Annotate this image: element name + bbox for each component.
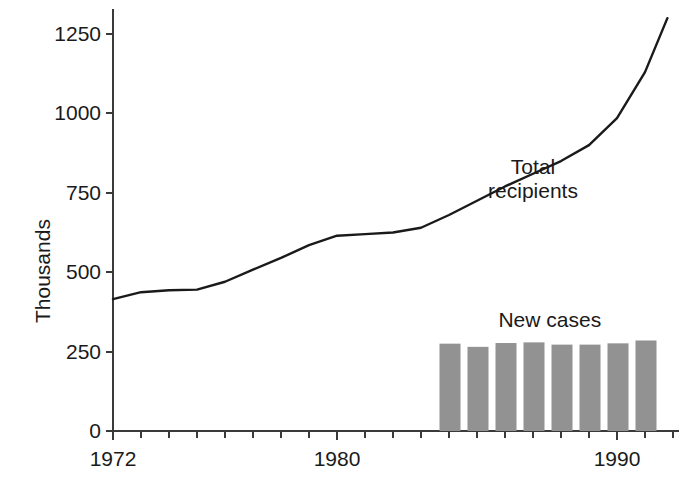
bar-new-cases-1988	[552, 345, 573, 431]
y-tick-label-500: 500	[66, 261, 101, 282]
bar-new-cases-1991	[636, 340, 657, 431]
x-tick-label-1980: 1980	[297, 448, 377, 469]
bar-new-cases-1989	[580, 345, 601, 431]
bar-series-new-cases	[440, 340, 657, 431]
bar-new-cases-1986	[496, 343, 517, 431]
bar-new-cases-1984	[440, 344, 461, 431]
series-label-total-recipients: Total recipients	[463, 155, 603, 202]
y-axis-title: Thousands	[32, 219, 53, 323]
series-label-total-line2: recipients	[488, 179, 578, 202]
series-label-total-line1: Total	[511, 155, 555, 178]
y-tick-label-750: 750	[66, 182, 101, 203]
bar-new-cases-1985	[468, 347, 489, 431]
y-tick-label-1000: 1000	[54, 102, 101, 123]
bar-new-cases-1987	[524, 342, 545, 431]
chart-container: 025050075010001250 197219801990 Thousand…	[0, 0, 696, 496]
chart-plot-area	[0, 0, 696, 496]
x-tick-label-1972: 1972	[73, 448, 153, 469]
x-tick-label-1990: 1990	[577, 448, 657, 469]
y-tick-label-250: 250	[66, 341, 101, 362]
y-tick-label-0: 0	[89, 420, 101, 441]
series-label-new-cases: New cases	[470, 308, 630, 332]
bar-new-cases-1990	[608, 343, 629, 431]
y-tick-label-1250: 1250	[54, 23, 101, 44]
